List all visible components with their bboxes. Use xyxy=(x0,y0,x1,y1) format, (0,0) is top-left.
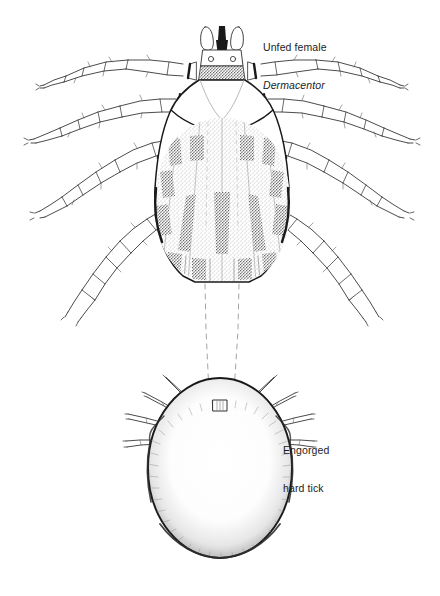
label-engorged-hard-tick: Engorged hard tick xyxy=(283,419,329,519)
leg-right-3 xyxy=(272,140,414,220)
engorged-capitulum xyxy=(213,400,227,411)
figure-page: Unfed female Dermacentor Engorged hard t… xyxy=(0,0,440,596)
leg-right-4 xyxy=(276,212,383,326)
leg-left-2 xyxy=(24,95,178,145)
label-engorged-line1: Engorged xyxy=(283,444,329,457)
label-unfed-scientific-name: Dermacentor xyxy=(263,79,327,92)
tick-illustration xyxy=(0,0,440,596)
label-unfed-line1: Unfed female xyxy=(263,41,327,54)
label-unfed-female: Unfed female Dermacentor xyxy=(263,16,327,116)
leg-left-4 xyxy=(61,212,168,326)
unfed-female-tick xyxy=(24,26,420,326)
label-engorged-line2: hard tick xyxy=(283,482,329,495)
capitulum xyxy=(199,26,245,80)
leg-left-1 xyxy=(36,55,183,90)
cut-off-caption xyxy=(6,583,11,591)
leg-left-3 xyxy=(30,140,172,220)
